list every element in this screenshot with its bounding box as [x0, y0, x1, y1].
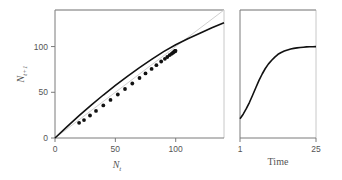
right-x-tick-label: 1 [238, 144, 243, 154]
data-point [109, 98, 113, 102]
left-y-tick-label: 0 [43, 133, 48, 143]
left-y-tick-label: 50 [39, 87, 49, 97]
data-point [123, 87, 127, 91]
left-x-tick-label: 100 [169, 144, 183, 154]
left-x-axis-title: Nt [112, 159, 123, 173]
data-point [144, 72, 148, 76]
data-point [116, 93, 120, 97]
data-point [77, 121, 81, 125]
data-point [101, 104, 105, 108]
left-x-tick-label: 50 [111, 144, 121, 154]
left-panel: 050100 050100 Nt Nt+1 [15, 10, 224, 173]
right-panel: 125 Time [238, 10, 321, 167]
right-x-tick-label: 25 [311, 144, 321, 154]
data-point [82, 118, 86, 122]
data-point [155, 63, 159, 67]
population-time-series [240, 47, 316, 119]
right-x-axis-title: Time [268, 156, 289, 167]
data-point [150, 67, 154, 71]
left-y-tick-label: 100 [34, 42, 48, 52]
data-point [130, 82, 134, 86]
left-y-axis-title: Nt+1 [15, 66, 29, 84]
data-point [88, 114, 92, 118]
right-plot-frame-top-right [240, 10, 316, 138]
data-point [138, 76, 142, 80]
data-point [174, 49, 178, 53]
identity-line [55, 10, 224, 138]
data-point [159, 60, 163, 64]
chart-canvas: 050100 050100 Nt Nt+1 125 Time [0, 0, 342, 180]
recruitment-curve [55, 23, 224, 138]
left-x-tick-label: 0 [53, 144, 58, 154]
data-point [94, 109, 98, 113]
